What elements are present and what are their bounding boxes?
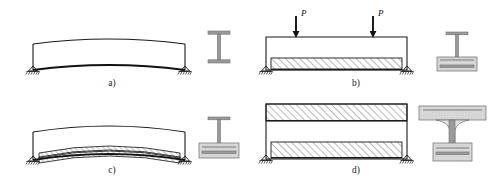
section-concrete-texture bbox=[437, 57, 477, 71]
section-web bbox=[217, 34, 220, 60]
figure-canvas: a) P bbox=[0, 0, 488, 180]
panel-d: d) bbox=[259, 104, 486, 176]
composite-beam-figure: a) P bbox=[0, 0, 488, 180]
section-bottom-flange bbox=[208, 60, 230, 63]
load-label: P bbox=[377, 8, 384, 18]
panel-b-elevation: P P bbox=[259, 8, 414, 75]
section-deck-texture bbox=[419, 106, 486, 120]
panel-c-cross-section bbox=[199, 117, 239, 158]
panel-label-c: c) bbox=[108, 165, 115, 176]
section-bottom-flange bbox=[440, 65, 474, 67]
panel-a: a) bbox=[26, 31, 230, 89]
section-web bbox=[456, 34, 459, 58]
load-arrow-1: P bbox=[293, 8, 307, 38]
section-web-plate bbox=[449, 120, 455, 144]
panel-b: P P b) bbox=[259, 8, 477, 89]
panel-label-d: d) bbox=[352, 165, 360, 176]
top-deck-slab bbox=[266, 104, 407, 121]
panel-label-a: a) bbox=[108, 78, 115, 89]
panel-c-elevation bbox=[26, 126, 192, 165]
load-arrow-2: P bbox=[370, 8, 384, 38]
concrete-slab bbox=[271, 58, 402, 69]
section-web bbox=[218, 119, 221, 144]
panel-d-elevation bbox=[259, 104, 414, 164]
section-bottom-flange bbox=[436, 152, 469, 155]
panel-a-cross-section bbox=[208, 31, 230, 63]
panel-d-cross-section bbox=[419, 106, 486, 161]
panel-a-elevation bbox=[26, 39, 192, 75]
section-bottom-flange bbox=[202, 151, 236, 153]
girder-bottom-chord bbox=[33, 65, 185, 70]
panel-c: c) bbox=[26, 117, 239, 176]
bottom-encasement-slab bbox=[271, 142, 402, 158]
load-label: P bbox=[300, 8, 307, 18]
girder-top-chord bbox=[33, 126, 185, 132]
section-concrete-texture bbox=[199, 143, 239, 158]
panel-b-cross-section bbox=[437, 32, 477, 71]
panel-label-b: b) bbox=[352, 78, 360, 89]
girder-top-chord bbox=[33, 39, 185, 44]
